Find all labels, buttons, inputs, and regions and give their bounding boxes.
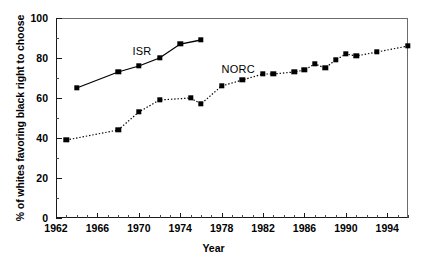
x-tick [263,213,264,219]
x-tick [77,215,78,218]
data-point [312,61,317,66]
data-point [64,137,69,142]
data-point [74,85,79,90]
x-tick [149,215,150,218]
x-tick [191,215,192,218]
series-label-isr: ISR [132,45,151,57]
x-tick-label: 1986 [293,222,316,234]
x-tick [315,215,316,218]
x-tick [294,215,295,218]
chart-figure: % of whites favoring black right to choo… [0,0,427,266]
x-tick [408,215,409,218]
x-tick [346,213,347,219]
x-tick [242,215,243,218]
x-tick [108,215,109,218]
y-tick [56,38,59,39]
x-tick-label: 1994 [376,222,399,234]
data-point [188,95,193,100]
data-point [333,57,338,62]
y-tick-label: 60 [0,92,48,104]
y-tick-label: 80 [0,52,48,64]
plot-frame [56,18,408,218]
y-tick [56,118,59,119]
x-tick-label: 1982 [251,222,274,234]
x-tick [273,215,274,218]
x-tick [201,215,202,218]
x-tick [170,215,171,218]
x-tick [356,215,357,218]
x-tick [160,215,161,218]
data-point [136,109,141,114]
y-tick [56,78,59,79]
data-point [343,51,348,56]
data-point [198,101,203,106]
data-point [115,69,120,74]
data-point [374,49,379,54]
data-point [157,55,162,60]
y-tick-label: 0 [0,212,48,224]
data-point [178,41,183,46]
y-tick [56,198,59,199]
data-point [291,69,296,74]
y-tick-label: 40 [0,132,48,144]
data-point [322,65,327,70]
data-point [136,63,141,68]
x-tick [139,213,140,219]
x-tick [336,215,337,218]
x-tick [222,213,223,219]
x-tick [128,215,129,218]
x-tick [253,215,254,218]
x-tick-label: 1990 [334,222,357,234]
y-tick [56,58,62,59]
data-point [271,71,276,76]
x-tick [284,215,285,218]
x-tick [377,215,378,218]
x-tick [232,215,233,218]
x-tick [66,215,67,218]
data-point [240,77,245,82]
plot-area: ISRNORC [56,18,408,218]
data-point [405,43,410,48]
data-point [354,53,359,58]
y-tick-label: 100 [0,12,48,24]
x-tick [97,213,98,219]
data-point [198,37,203,42]
x-tick [325,215,326,218]
x-tick [398,215,399,218]
y-axis-label: % of whites favoring black right to choo… [14,2,26,234]
y-tick [56,218,62,219]
series-label-norc: NORC [222,63,255,75]
y-tick [56,158,59,159]
y-tick [56,98,62,99]
data-point [302,67,307,72]
y-tick-label: 20 [0,172,48,184]
x-tick [118,215,119,218]
y-tick [56,178,62,179]
x-tick [211,215,212,218]
x-tick-label: 1970 [127,222,150,234]
x-tick-label: 1978 [210,222,233,234]
y-tick [56,18,62,19]
x-tick [367,215,368,218]
y-tick [56,138,62,139]
x-tick [304,213,305,219]
x-tick [87,215,88,218]
x-tick-label: 1966 [86,222,109,234]
x-tick-label: 1974 [169,222,192,234]
x-axis-label: Year [0,242,427,254]
x-tick [387,213,388,219]
data-point [115,127,120,132]
data-point [219,83,224,88]
data-point [260,71,265,76]
x-tick [180,213,181,219]
data-point [157,97,162,102]
